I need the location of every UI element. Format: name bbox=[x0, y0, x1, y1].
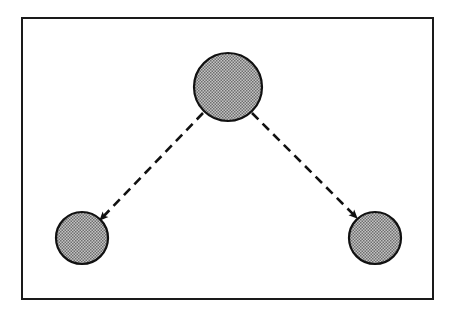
edge-parent-to-right-child bbox=[252, 113, 357, 218]
edge-parent-to-left-child bbox=[100, 113, 203, 220]
parent-node bbox=[194, 53, 262, 121]
tree-diagram bbox=[0, 0, 452, 314]
right-child-node bbox=[349, 212, 401, 264]
left-child-node bbox=[56, 212, 108, 264]
